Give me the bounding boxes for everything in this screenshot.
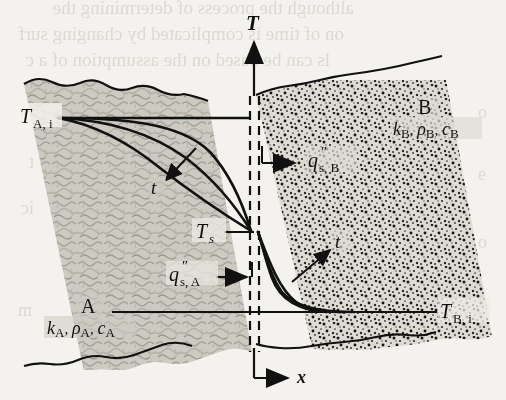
svg-text:m: m [18,300,32,320]
t-axis-label: T [246,11,260,35]
t-a-initial-label: T A, i [16,103,62,131]
region-b-name: B [418,96,431,118]
figure-canvas: although the process of determining the … [0,0,506,400]
region-a-label: A [78,295,102,317]
flux-b-symbol: q [308,149,318,172]
flux-a-label: q ″ s, A [166,258,218,289]
flux-a-primes: ″ [181,258,188,274]
time-label-left: t [148,176,166,198]
svg-text:on of time is complicated by c: on of time is complicated by changing su… [18,23,344,44]
flux-b-subscript: s, B [319,160,340,175]
t-b-initial-subscript: B, i [453,311,472,326]
time-right-symbol: t [335,231,341,252]
time-left-symbol: t [151,177,157,198]
svg-text:ls can be based on the assumpt: ls can be based on the assumption of a c [26,49,330,70]
t-surface-label: T s [192,218,226,246]
t-a-initial-symbol: T [20,105,33,127]
t-b-initial-label: T B, i [438,298,490,326]
region-b-label: B [415,96,439,118]
figure-svg: although the process of determining the … [0,0,506,400]
t-surface-symbol: T [196,220,209,242]
t-surface-subscript: s [209,231,214,246]
x-axis-label: x [296,367,306,387]
flux-b-primes: ″ [320,144,327,160]
time-label-right: t [332,230,350,252]
region-a-name: A [81,295,96,317]
t-a-initial-subscript: A, i [33,116,53,131]
region-b-properties: kB, ρB, cB [390,117,482,141]
flux-b-label: q ″ s, B [305,144,357,175]
svg-text:although the process of determ: although the process of determining the [53,0,354,18]
svg-text:e: e [478,164,486,184]
region-a-properties: kA, ρA, cA [44,316,136,340]
flux-a-subscript: s, A [180,274,201,289]
svg-text:t: t [29,152,34,172]
flux-a-symbol: q [169,263,179,286]
svg-text:ic: ic [21,198,34,218]
t-b-initial-symbol: T [440,300,453,322]
svg-text:o: o [478,232,487,252]
